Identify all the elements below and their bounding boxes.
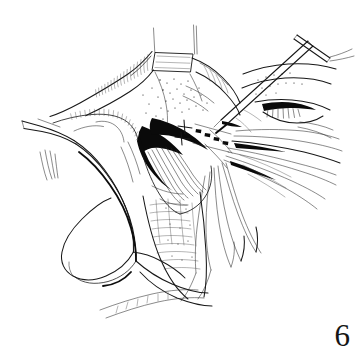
figure-number-label: 6 (335, 320, 351, 351)
surgical-illustration (0, 0, 362, 357)
figure-plate-container: 6 (0, 0, 362, 357)
gauze-square-top (152, 53, 193, 73)
